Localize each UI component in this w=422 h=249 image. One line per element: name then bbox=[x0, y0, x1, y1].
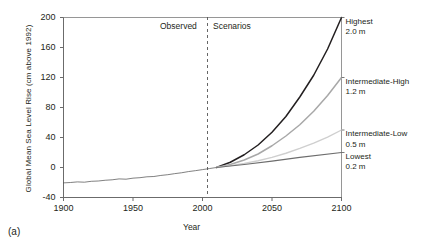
x-tick-marks bbox=[64, 198, 342, 202]
series-label-value: 2.0 m bbox=[346, 27, 373, 38]
figure-panel-a: Global Mean Sea Level Rise (cm above 199… bbox=[0, 0, 422, 249]
y-tick-marks bbox=[60, 18, 64, 198]
x-tick-label: 1950 bbox=[113, 203, 153, 213]
observed-region-label: Observed bbox=[160, 21, 197, 31]
panel-caption: (a) bbox=[8, 226, 20, 237]
series-label-name: Intermediate-High bbox=[346, 77, 410, 88]
y-tick-label: -40 bbox=[30, 192, 56, 202]
y-tick-label: 160 bbox=[30, 42, 56, 52]
series-label-intermediate-high: Intermediate-High1.2 m bbox=[346, 77, 410, 98]
series-label-value: 1.2 m bbox=[346, 87, 410, 98]
y-tick-label: 40 bbox=[30, 132, 56, 142]
x-tick-label: 1900 bbox=[44, 203, 84, 213]
y-tick-label: 200 bbox=[30, 12, 56, 22]
x-axis-label: Year bbox=[183, 222, 200, 232]
series-label-highest: Highest2.0 m bbox=[346, 17, 373, 38]
y-tick-label: 80 bbox=[30, 102, 56, 112]
y-tick-label: 120 bbox=[30, 72, 56, 82]
series-paths bbox=[64, 18, 342, 183]
chart-axes bbox=[63, 17, 342, 198]
y-tick-label: 0 bbox=[30, 162, 56, 172]
series-label-intermediate-low: Intermediate-Low0.5 m bbox=[346, 129, 408, 150]
series-label-name: Highest bbox=[346, 17, 373, 28]
series-label-lowest: Lowest0.2 m bbox=[346, 152, 371, 173]
series-leader-ticks bbox=[342, 18, 345, 153]
series-label-name: Lowest bbox=[346, 152, 371, 163]
series-label-value: 0.5 m bbox=[346, 140, 408, 151]
series-line-intermediate-high bbox=[216, 78, 341, 168]
series-line-highest bbox=[216, 18, 341, 168]
series-line-observed bbox=[64, 168, 217, 183]
scenarios-region-label: Scenarios bbox=[213, 21, 251, 31]
x-tick-label: 2100 bbox=[322, 203, 362, 213]
series-label-name: Intermediate-Low bbox=[346, 129, 408, 140]
series-label-value: 0.2 m bbox=[346, 162, 371, 173]
series-line-intermediate-low bbox=[216, 130, 341, 168]
x-tick-label: 2050 bbox=[252, 203, 292, 213]
x-tick-label: 2000 bbox=[183, 203, 223, 213]
